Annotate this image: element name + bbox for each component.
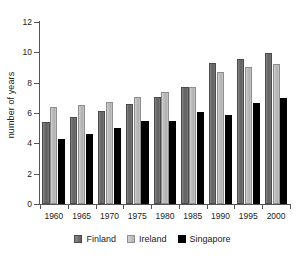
- bar-singapore-1985: [197, 112, 204, 204]
- x-axis-line: [39, 204, 291, 205]
- bar-finland-1985: [181, 87, 188, 204]
- y-axis-tick-label: 6: [0, 108, 32, 118]
- bar-finland-1980: [154, 97, 161, 204]
- y-axis-tick: [34, 22, 39, 23]
- ireland-swatch: [127, 235, 135, 243]
- x-axis-tick: [96, 205, 97, 209]
- y-axis-tick: [34, 204, 39, 205]
- singapore-swatch: [178, 235, 186, 243]
- y-axis-tick: [34, 143, 39, 144]
- x-axis-tick: [40, 205, 41, 209]
- bar-finland-1995: [237, 59, 244, 204]
- finland-swatch: [74, 235, 82, 243]
- y-axis-tick-label: 2: [0, 169, 32, 179]
- bar-finland-1960: [42, 122, 49, 204]
- bar-ireland-2000: [273, 64, 280, 204]
- bar-ireland-1965: [78, 105, 85, 204]
- legend-item-ireland[interactable]: Ireland: [127, 234, 167, 244]
- y-axis-tick: [34, 52, 39, 53]
- bar-singapore-1970: [114, 128, 121, 204]
- y-axis-tick-label: 8: [0, 78, 32, 88]
- legend-label: Finland: [86, 234, 116, 244]
- x-axis-tick: [290, 205, 291, 209]
- bar-finland-1990: [209, 63, 216, 204]
- y-axis-tick: [34, 83, 39, 84]
- bar-ireland-1980: [161, 92, 168, 204]
- plot-area: [40, 22, 290, 204]
- bar-ireland-1995: [245, 67, 252, 204]
- x-axis-tick: [123, 205, 124, 209]
- y-axis-tick-label: 10: [0, 47, 32, 57]
- y-axis-tick: [34, 174, 39, 175]
- legend-item-finland[interactable]: Finland: [74, 234, 116, 244]
- bar-singapore-1960: [58, 139, 65, 204]
- bar-ireland-1990: [217, 72, 224, 204]
- y-axis-tick-label: 4: [0, 138, 32, 148]
- x-axis-tick: [234, 205, 235, 209]
- x-axis-tick: [179, 205, 180, 209]
- bar-singapore-1975: [141, 121, 148, 204]
- legend-label: Singapore: [190, 234, 231, 244]
- bar-ireland-1975: [134, 97, 141, 204]
- x-axis-tick: [68, 205, 69, 209]
- y-axis-tick-label: 0: [0, 199, 32, 209]
- chart-legend: FinlandIrelandSingapore: [0, 234, 305, 244]
- bar-ireland-1960: [50, 107, 57, 204]
- bar-ireland-1985: [189, 87, 196, 204]
- bar-finland-1970: [98, 111, 105, 204]
- y-axis-tick: [34, 113, 39, 114]
- x-axis-tick: [262, 205, 263, 209]
- y-axis-tick-label: 12: [0, 17, 32, 27]
- bar-chart: number of years 024681012 19601965197019…: [0, 0, 305, 261]
- x-axis-tick: [151, 205, 152, 209]
- bar-singapore-2000: [280, 98, 287, 204]
- bar-singapore-1990: [225, 115, 232, 204]
- legend-label: Ireland: [139, 234, 167, 244]
- bar-singapore-1965: [86, 134, 93, 204]
- bar-finland-1975: [126, 104, 133, 204]
- bar-finland-1965: [70, 117, 77, 204]
- x-axis-tick-label: 2000: [259, 211, 293, 221]
- x-axis-tick: [207, 205, 208, 209]
- bar-singapore-1995: [253, 103, 260, 204]
- bar-singapore-1980: [169, 121, 176, 204]
- legend-item-singapore[interactable]: Singapore: [178, 234, 231, 244]
- bar-finland-2000: [265, 53, 272, 204]
- bar-ireland-1970: [106, 102, 113, 204]
